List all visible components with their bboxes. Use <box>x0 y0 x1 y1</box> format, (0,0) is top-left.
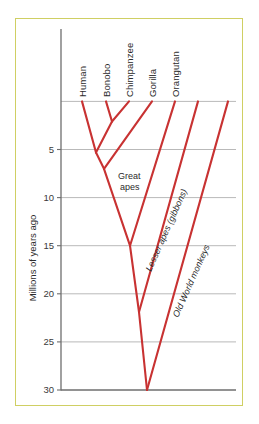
annotation-great-apes-line1: Great <box>118 171 141 181</box>
y-axis: 5 10 15 20 25 30 Millions of years ago <box>27 29 61 395</box>
branch-humanpan-stem <box>96 153 104 169</box>
y-tick-label-20: 20 <box>43 288 54 299</box>
branch-hominoidea-stem <box>139 312 147 390</box>
y-axis-title: Millions of years ago <box>27 215 38 302</box>
clade-annotations: Great apes Lesser apes (gibbons) Old Wor… <box>118 171 212 319</box>
branch-gorilla <box>104 101 152 168</box>
phylogenetic-tree-figure: 5 10 15 20 25 30 Millions of years ago <box>0 0 259 424</box>
y-tick-label-15: 15 <box>43 240 54 251</box>
tree-svg: 5 10 15 20 25 30 Millions of years ago <box>0 0 259 424</box>
y-tick-label-10: 10 <box>43 192 54 203</box>
branch-chimpanzee <box>112 101 129 121</box>
annotation-lesser-apes: Lesser apes (gibbons) <box>144 187 189 272</box>
branch-greatapes-stem <box>130 246 139 312</box>
y-tick-label-5: 5 <box>49 144 54 155</box>
y-tick-label-25: 25 <box>43 336 54 347</box>
branch-bonobo <box>106 101 112 121</box>
y-tick-label-30: 30 <box>43 384 54 395</box>
gridlines <box>61 101 236 390</box>
tip-label-orangutan: Orangutan <box>170 51 181 97</box>
branch-human <box>82 101 96 152</box>
tip-label-gorilla: Gorilla <box>147 68 158 97</box>
tip-label-bonobo: Bonobo <box>101 64 112 97</box>
tip-label-human: Human <box>77 66 88 97</box>
annotation-great-apes-line2: apes <box>120 182 140 192</box>
tip-label-chimpanzee: Chimpanzee <box>124 43 135 97</box>
branch-pan-stem <box>96 122 112 153</box>
tip-labels: Human Bonobo Chimpanzee Gorilla Oranguta… <box>77 43 181 97</box>
